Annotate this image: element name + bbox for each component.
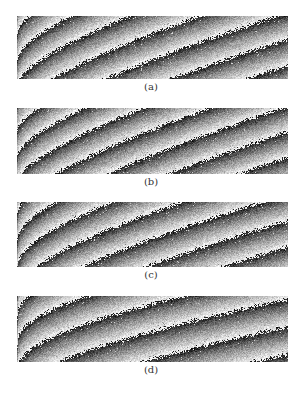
fringe-image-b	[17, 108, 288, 174]
fringe-image-d	[17, 296, 288, 362]
fringe-image-a	[17, 16, 288, 79]
caption-d: (d)	[0, 364, 302, 376]
caption-b: (b)	[0, 176, 302, 188]
caption-c: (c)	[0, 269, 302, 281]
fringe-panel-a	[17, 16, 288, 79]
fringe-panel-b	[17, 108, 288, 174]
fringe-image-c	[17, 202, 288, 267]
caption-a: (a)	[0, 81, 302, 93]
fringe-panel-d	[17, 296, 288, 362]
fringe-panel-c	[17, 202, 288, 267]
